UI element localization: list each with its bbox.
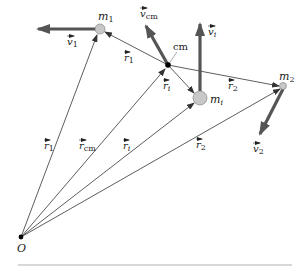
r2-vector — [21, 89, 280, 237]
label-vi: vi — [208, 26, 217, 39]
mass-mi — [193, 91, 207, 105]
svg-text:ri: ri — [123, 140, 131, 153]
svg-text:ri: ri — [163, 80, 171, 93]
svg-text:v1: v1 — [67, 36, 78, 49]
cm-point — [165, 62, 171, 68]
label-m2: m2 — [279, 70, 295, 84]
svg-text:r1: r1 — [44, 140, 54, 153]
svg-text:v2: v2 — [253, 143, 264, 156]
svg-text:vcm: vcm — [140, 8, 158, 21]
label-r2-prime: r2 — [228, 80, 238, 93]
label-ri-prime: ri — [163, 80, 171, 93]
svg-text:r2: r2 — [196, 139, 206, 152]
label-r1-prime: r1 — [124, 52, 134, 65]
label-v1: v1 — [67, 36, 78, 49]
label-ri: ri — [123, 140, 131, 153]
label-mi: mi — [210, 93, 223, 107]
label-cm: cm — [173, 41, 189, 52]
mass-m2 — [280, 83, 287, 90]
label-r2: r2 — [196, 139, 206, 152]
r1-vector — [21, 35, 97, 237]
mass-m1 — [95, 24, 105, 34]
position-vectors — [21, 35, 280, 237]
label-origin: O — [17, 242, 26, 255]
cm-vector-diagram: O m1 mi m2 cm v1 vcm vi v2 r1 rcm ri r2 … — [0, 0, 305, 274]
svg-text:r1: r1 — [124, 52, 134, 65]
label-m1: m1 — [98, 10, 114, 24]
label-r1: r1 — [44, 140, 54, 153]
label-v2: v2 — [253, 143, 264, 156]
label-vcm: vcm — [140, 8, 158, 21]
ri-vector — [21, 103, 194, 237]
label-rcm: rcm — [79, 140, 96, 153]
svg-text:r2: r2 — [228, 80, 238, 93]
svg-text:vi: vi — [208, 26, 217, 39]
origin-point — [19, 235, 24, 240]
svg-text:rcm: rcm — [79, 140, 96, 153]
rcm-vector — [21, 69, 165, 237]
v2-vector — [260, 89, 283, 134]
